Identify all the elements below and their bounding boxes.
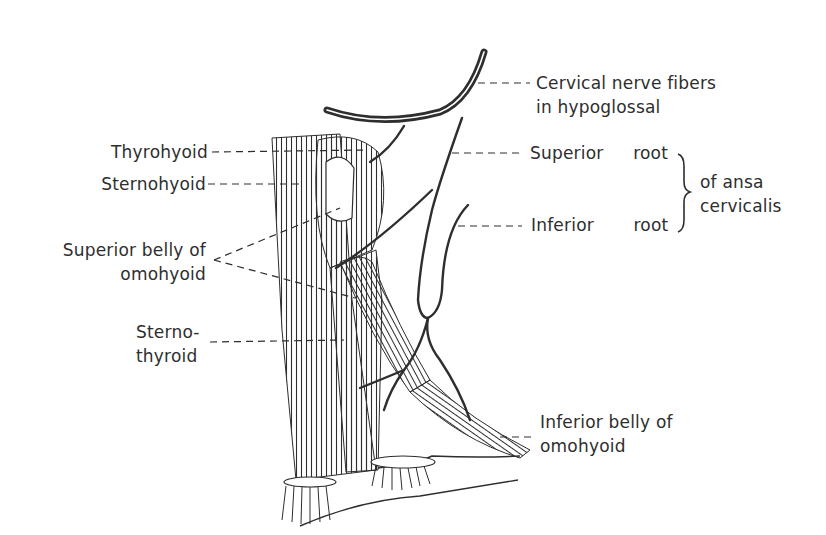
label-cervical-nerve-fibers: Cervical nerve fibers in hypoglossal (536, 71, 716, 119)
cut-end-sternohyoid (284, 477, 336, 487)
label-superior-root: Superior root (530, 141, 668, 165)
label-sternohyoid: Sternohyoid (60, 172, 206, 196)
label-text: Superior belly of (30, 238, 206, 262)
label-text: of ansa (700, 170, 782, 194)
label-sternothyroid: Sterno- thyroid (136, 320, 200, 368)
label-superior-belly-omohyoid: Superior belly of omohyoid (30, 238, 206, 286)
cut-end-sternothyroid (371, 456, 435, 468)
label-text: Inferior (531, 215, 594, 235)
label-text: Cervical nerve fibers (536, 71, 716, 95)
anatomy-figure: Cervical nerve fibers in hypoglossal Sup… (0, 0, 826, 535)
label-inferior-belly-omohyoid: Inferior belly of omohyoid (540, 410, 673, 458)
label-text: root (633, 143, 668, 163)
label-text: thyroid (136, 344, 200, 368)
label-text: Inferior belly of (540, 410, 673, 434)
label-text: omohyoid (540, 434, 673, 458)
brace-icon (674, 150, 694, 234)
label-text: cervicalis (700, 194, 782, 218)
label-text: Sterno- (136, 320, 200, 344)
label-text: Thyrohyoid (111, 142, 208, 162)
label-text: root (634, 215, 669, 235)
label-thyrohyoid: Thyrohyoid (60, 140, 208, 164)
label-text: Superior (530, 143, 604, 163)
label-ansa-cervicalis: of ansa cervicalis (700, 170, 782, 218)
label-text: Sternohyoid (101, 174, 206, 194)
hypoglossal-nerve (327, 52, 484, 120)
label-text: in hypoglossal (536, 95, 716, 119)
label-text: omohyoid (30, 262, 206, 286)
label-inferior-root: Inferior root (531, 213, 668, 237)
